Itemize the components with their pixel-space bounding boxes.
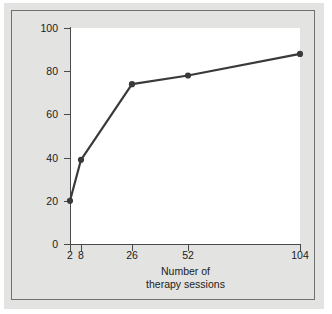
chart-figure: 0 20 40 60 80 100 2 8 26 52 104 Percent …	[0, 0, 332, 314]
x-tick-label-104: 104	[287, 250, 313, 261]
y-tick-60	[64, 114, 70, 115]
y-tick-label-100: 100	[40, 23, 58, 33]
x-tick-label-26: 26	[121, 250, 143, 261]
plot-area	[70, 28, 300, 244]
x-tick-label-52: 52	[177, 250, 199, 261]
y-tick-label-0: 0	[52, 239, 58, 249]
x-axis-title: Number of therapy sessions	[70, 265, 301, 291]
x-axis-title-line-1: Number of	[70, 265, 301, 278]
y-tick-label-20: 20	[46, 196, 58, 206]
x-tick-label-8: 8	[73, 250, 89, 261]
y-tick-label-60: 60	[46, 109, 58, 119]
x-axis-title-line-2: therapy sessions	[70, 278, 301, 291]
y-tick-20	[64, 201, 70, 202]
y-tick-40	[64, 158, 70, 159]
x-axis-spine	[70, 244, 301, 245]
y-axis-spine	[70, 27, 71, 245]
y-tick-100	[64, 28, 70, 29]
plot-wrapper: 0 20 40 60 80 100 2 8 26 52 104 Percent …	[0, 0, 332, 314]
y-tick-label-80: 80	[46, 66, 58, 76]
y-tick-80	[64, 71, 70, 72]
y-tick-label-40: 40	[46, 153, 58, 163]
